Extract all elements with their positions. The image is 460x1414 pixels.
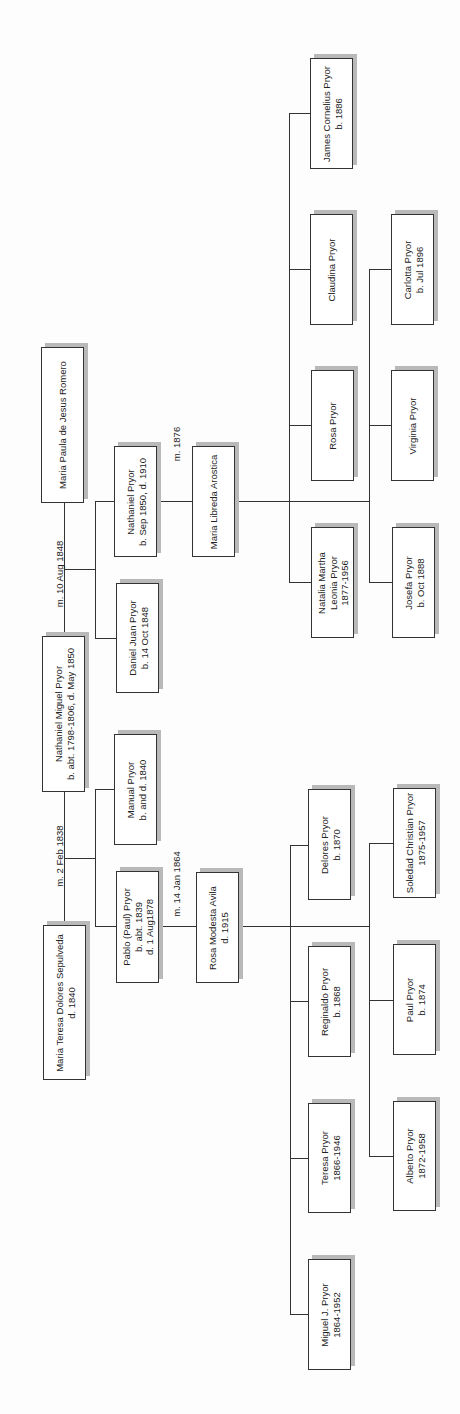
connector-line [369, 425, 391, 426]
person-dates: d. 1840 [65, 934, 77, 1072]
person-name: Nathaniel Pryor [124, 457, 136, 545]
person-nathaniel[interactable]: Nathaniel Pryorb. Sep 1850, d. 1910 [114, 446, 157, 557]
person-dates: b. 1870 [330, 815, 342, 873]
person-name: Maria Teresa Dolores Sepulveda [53, 934, 65, 1072]
connector-line [95, 926, 116, 927]
marriage-label: m. 10 Aug 1848 [54, 541, 65, 608]
person-name: Teresa Pryor [318, 1131, 330, 1185]
person-miguel-j[interactable]: Miguel J. Pryor1864-1952 [308, 1259, 351, 1370]
person-name: Pablo (Paul) Pryor [120, 888, 132, 966]
person-name: Alberto Pryor [403, 1128, 415, 1183]
person-name: Claudina Pryor [326, 238, 338, 301]
connector-line [95, 501, 114, 502]
person-maria-paula[interactable]: Maria Paula de Jesus Romero [41, 347, 84, 503]
connector-line [290, 1314, 308, 1315]
person-dates: b. 1868 [330, 967, 342, 1035]
connector-line [290, 845, 291, 1314]
family-tree-diagram: m. 10 Aug 1848 m. 2 Feb 1838 m. 1876 m. … [0, 0, 460, 1414]
person-name: James Cornelius Pryor [320, 65, 332, 161]
connector-line [64, 569, 95, 570]
person-soledad[interactable]: Soledad Christian Pryor1875-1957 [393, 788, 436, 898]
connector-line [289, 269, 310, 270]
connector-line [159, 926, 369, 927]
person-dates: d. 1 Aug1878 [143, 888, 155, 966]
person-name: Soledad Christian Pryor [403, 793, 415, 893]
person-james-cornelius[interactable]: James Cornelius Pryorb. 1886 [310, 58, 353, 169]
person-paul[interactable]: Paul Pryorb. 1874 [393, 944, 436, 1055]
person-name: Leonia Pryor [327, 552, 339, 614]
connector-line [290, 1001, 308, 1002]
person-name: Nathaniel Miguel Pryor [52, 648, 64, 780]
person-reginaldo[interactable]: Reginaldo Pryorb. 1868 [308, 946, 351, 1057]
person-josefa[interactable]: Josefa Pryorb. Oct 1888 [392, 527, 435, 638]
connector-line [289, 582, 311, 583]
connector-line [95, 501, 96, 638]
connector-line [369, 269, 391, 270]
connector-line [289, 113, 310, 114]
connector-line [369, 843, 393, 844]
person-dates: b. Oct 1888 [414, 556, 426, 609]
connector-line [290, 845, 308, 846]
connector-line [289, 425, 311, 426]
person-name: Josefa Pryor [402, 556, 414, 609]
person-name: Delores Pryor [318, 815, 330, 873]
person-name: Maria Paula de Jesus Romero [57, 361, 69, 489]
person-name: Virginia Pryor [407, 397, 419, 454]
person-dates: b. 1886 [332, 65, 344, 161]
person-pablo[interactable]: Pablo (Paul) Pryorb. abt. 1839d. 1 Aug18… [116, 871, 159, 983]
person-virginia[interactable]: Virginia Pryor [391, 370, 434, 481]
person-name: Manual Pryor [124, 759, 136, 820]
person-dates: b. and d. 1840 [136, 759, 148, 820]
person-rosa[interactable]: Rosa Pryor [311, 370, 354, 481]
marriage-label: m. 1876 [171, 427, 182, 461]
person-rosa-modesta[interactable]: Rosa Modesta Avilad. 1915 [196, 872, 239, 983]
connector-line [369, 1156, 393, 1157]
person-maria-libreda[interactable]: Maria Libreda Arostica [192, 446, 235, 557]
person-name: Daniel Juan Pryor [126, 600, 138, 676]
connector-line [95, 789, 96, 926]
person-dates: b. abt. 1798-1806, d. May 1850 [64, 648, 76, 780]
person-claudina[interactable]: Claudina Pryor [310, 214, 353, 325]
person-dates: 1875-1957 [415, 793, 427, 893]
person-dates: 1866-1946 [330, 1131, 342, 1185]
person-maria-teresa[interactable]: Maria Teresa Dolores Sepulvedad. 1840 [43, 925, 86, 1080]
person-dates: 1864-1952 [330, 1283, 342, 1346]
person-carlotta[interactable]: Carlotta Pryorb. Jul 1896 [391, 214, 434, 325]
person-name: Rosa Modesta Avila [206, 886, 218, 970]
person-dates: b. 14 Oct 1848 [138, 600, 150, 676]
person-dates: b. 1874 [415, 977, 427, 1021]
connector-line [95, 789, 114, 790]
person-dates: b. Jul 1896 [413, 240, 425, 299]
person-manual[interactable]: Manual Pryorb. and d. 1840 [114, 734, 157, 845]
person-dates: 1877-1956 [338, 552, 350, 614]
person-name: Paul Pryor [403, 977, 415, 1021]
person-dates: b. abt. 1839 [132, 888, 144, 966]
connector-line [64, 858, 95, 859]
person-name: Miguel J. Pryor [318, 1283, 330, 1346]
connector-line [290, 1158, 308, 1159]
person-daniel-juan[interactable]: Daniel Juan Pryorb. 14 Oct 1848 [116, 583, 159, 693]
marriage-label: m. 2 Feb 1838 [54, 825, 65, 886]
person-teresa[interactable]: Teresa Pryor1866-1946 [308, 1103, 351, 1213]
connector-line [95, 638, 116, 639]
person-name: Maria Libreda Arostica [208, 454, 220, 549]
connector-line [289, 113, 290, 582]
person-alberto[interactable]: Alberto Pryor1872-1958 [393, 1101, 436, 1211]
person-nathaniel-miguel[interactable]: Nathaniel Miguel Pryorb. abt. 1798-1806,… [42, 636, 85, 792]
person-name: Natalia Martha [315, 552, 327, 614]
person-name: Carlotta Pryor [401, 240, 413, 299]
marriage-label: m. 14 Jan 1864 [171, 851, 182, 917]
connector-line [369, 1000, 393, 1001]
person-dates: 1872-1958 [415, 1128, 427, 1183]
person-natalia[interactable]: Natalia MarthaLeonia Pryor1877-1956 [311, 527, 354, 638]
person-delores[interactable]: Delores Pryorb. 1870 [308, 789, 351, 900]
person-dates: d. 1915 [218, 886, 230, 970]
person-name: Rosa Pryor [327, 402, 339, 450]
connector-line [157, 501, 369, 502]
connector-line [369, 582, 392, 583]
person-name: Reginaldo Pryor [318, 967, 330, 1035]
person-dates: b. Sep 1850, d. 1910 [136, 457, 148, 545]
